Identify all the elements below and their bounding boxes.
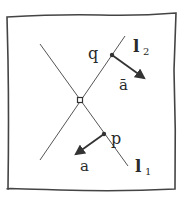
frame-border	[7, 13, 176, 191]
label-a-bar: ā	[119, 76, 128, 94]
label-q: q	[88, 44, 98, 63]
label-l1-subscript: 1	[145, 166, 151, 177]
label-l2: l	[133, 36, 140, 56]
diagram-canvas: l 2 q ā p a l 1	[0, 0, 184, 197]
vector-a-bar	[112, 55, 144, 78]
label-a: a	[80, 157, 89, 175]
label-l2-subscript: 2	[143, 46, 149, 57]
intersection-marker	[78, 98, 83, 103]
vector-a	[76, 134, 104, 154]
label-p: p	[111, 129, 121, 148]
label-l1: l	[135, 156, 142, 176]
